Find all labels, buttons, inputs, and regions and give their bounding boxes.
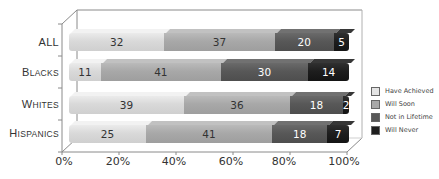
legend-label: Will Soon (385, 100, 415, 108)
x-tick-40: 40% (162, 155, 186, 168)
label-rest: LACKS (30, 68, 59, 78)
legend: Have Achieved Will Soon Not in Lifetime … (371, 85, 434, 137)
bar-hispanics: 2541187 (69, 125, 349, 143)
label-rest: ISPANICS (18, 129, 59, 139)
category-label-all: ALL (39, 36, 59, 48)
legend-label: Not in Lifetime (385, 113, 433, 121)
bar-segment-have-achieved: 25 (69, 125, 146, 143)
bar-all: 3237205 (69, 33, 349, 51)
legend-swatch (371, 126, 380, 135)
legend-swatch (371, 87, 380, 96)
label-initial: W (22, 98, 33, 110)
bar-segment-will-never: 2 (343, 96, 349, 114)
bar-segment-have-achieved: 11 (69, 63, 101, 81)
legend-label: Have Achieved (385, 87, 434, 95)
bar-segment-not-in-lifetime: 18 (272, 125, 327, 143)
x-tick-60: 60% (219, 155, 243, 168)
x-tick-80: 80% (272, 155, 296, 168)
label-rest: HITES (32, 100, 59, 110)
legend-item-not-in-lifetime: Not in Lifetime (371, 111, 434, 123)
x-tick-100: 100% (328, 155, 359, 168)
stacked-bar-chart: ALL BLACKS WHITES HISPANICS 323720511413… (0, 0, 439, 179)
bar-segment-have-achieved: 32 (69, 33, 164, 51)
category-label-whites: WHITES (22, 98, 59, 110)
legend-item-will-never: Will Never (371, 124, 434, 136)
bar-segment-not-in-lifetime: 30 (221, 63, 309, 81)
bar-segment-will-soon: 41 (146, 125, 272, 143)
bar-segment-will-never: 14 (308, 63, 349, 81)
legend-swatch (371, 113, 380, 122)
x-tick-0: 0% (55, 155, 72, 168)
bar-segment-will-soon: 37 (164, 33, 274, 51)
legend-item-have-achieved: Have Achieved (371, 85, 434, 97)
label-initial: A (39, 36, 47, 48)
bar-segment-not-in-lifetime: 20 (275, 33, 335, 51)
bar-segment-will-never: 5 (334, 33, 349, 51)
label-initial: B (22, 66, 30, 78)
bar-segment-will-soon: 41 (101, 63, 221, 81)
bar-segment-will-never: 7 (327, 125, 349, 143)
bar-segment-have-achieved: 39 (69, 96, 184, 114)
category-label-blacks: BLACKS (22, 66, 59, 78)
legend-item-will-soon: Will Soon (371, 98, 434, 110)
x-tick-20: 20% (106, 155, 130, 168)
bar-segment-will-soon: 36 (184, 96, 290, 114)
legend-label: Will Never (385, 126, 418, 134)
bar-whites: 3936182 (69, 96, 349, 114)
legend-swatch (371, 100, 380, 109)
category-label-hispanics: HISPANICS (9, 127, 59, 139)
bar-blacks: 11413014 (69, 63, 349, 81)
label-rest: LL (46, 36, 59, 48)
label-initial: H (9, 127, 17, 139)
bar-segment-not-in-lifetime: 18 (290, 96, 343, 114)
